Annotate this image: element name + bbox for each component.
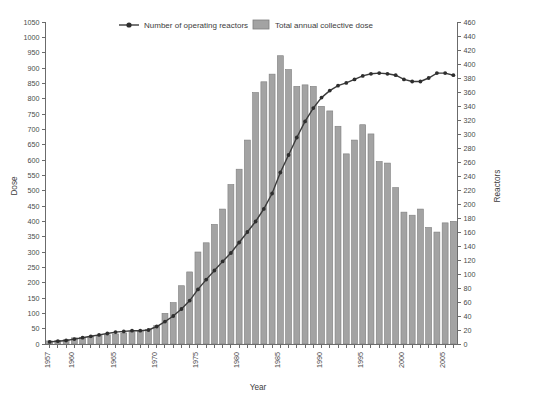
y-right-tick-label-400: 400 (464, 60, 476, 69)
plot-area (47, 56, 457, 344)
bar-1974 (187, 272, 193, 344)
bar-2002 (417, 209, 423, 344)
x-axis: 1957196019651970197519801985199019952000… (43, 344, 458, 368)
line-point-1973 (180, 307, 184, 311)
y-left-tick-label-200: 200 (28, 278, 40, 287)
y-left-tick-label-950: 950 (28, 48, 40, 57)
x-tick-label-1990: 1990 (315, 352, 324, 368)
bar-1978 (220, 209, 226, 344)
bar-1995 (360, 125, 366, 344)
line-point-1994 (353, 78, 357, 82)
y-right-tick-label-100: 100 (464, 270, 476, 279)
y-left-tick-label-550: 550 (28, 171, 40, 180)
line-point-1971 (163, 320, 167, 324)
bar-1981 (244, 140, 250, 344)
y-left-tick-label-900: 900 (28, 64, 40, 73)
y-right-tick-label-0: 0 (464, 340, 468, 349)
y-right-tick-label-40: 40 (464, 312, 472, 321)
line-point-2000 (402, 78, 406, 82)
y-left-tick-label-350: 350 (28, 232, 40, 241)
bar-1973 (178, 286, 184, 344)
line-point-1992 (336, 84, 340, 88)
line-point-1957 (48, 340, 52, 344)
bar-1980 (236, 169, 242, 344)
y-right-tick-label-20: 20 (464, 326, 472, 335)
bar-1979 (228, 185, 234, 344)
line-point-2002 (419, 80, 423, 84)
y-left-tick-label-500: 500 (28, 186, 40, 195)
line-point-1967 (130, 329, 134, 333)
y-right-tick-label-180: 180 (464, 214, 476, 223)
y-right-tick-label-280: 280 (464, 144, 476, 153)
bar-2004 (434, 232, 440, 344)
line-point-1981 (245, 230, 249, 234)
legend-label-dose: Total annual collective dose (275, 21, 373, 30)
line-point-1987 (295, 136, 299, 140)
x-tick-label-1957: 1957 (43, 352, 52, 368)
line-point-1988 (303, 120, 307, 124)
x-tick-label-1960: 1960 (67, 352, 76, 368)
y-right-tick-label-60: 60 (464, 298, 472, 307)
bar-1972 (170, 303, 176, 344)
line-point-1975 (196, 288, 200, 292)
y-right-tick-label-220: 220 (464, 186, 476, 195)
y-right-tick-label-420: 420 (464, 46, 476, 55)
y-right-tick-label-300: 300 (464, 130, 476, 139)
x-tick-label-2000: 2000 (397, 352, 406, 368)
x-tick-label-1995: 1995 (356, 352, 365, 368)
line-point-1997 (377, 71, 381, 75)
bar-1989 (310, 86, 316, 344)
line-point-1964 (105, 332, 109, 336)
line-point-1976 (204, 278, 208, 282)
y-left-tick-label-450: 450 (28, 202, 40, 211)
line-point-1978 (221, 260, 225, 264)
y-left-tick-label-300: 300 (28, 248, 40, 257)
bar-1993 (343, 154, 349, 344)
bar-1967 (129, 332, 135, 344)
y-axis-left: 0501001502002503003504004505005506006507… (24, 18, 46, 349)
y-left-tick-label-1000: 1000 (24, 33, 40, 42)
y-left-tick-label-600: 600 (28, 156, 40, 165)
bar-1985 (277, 56, 283, 344)
y-left-tick-label-250: 250 (28, 263, 40, 272)
bar-1966 (121, 333, 127, 344)
y-axis-left-title: Dose (10, 176, 19, 196)
y-right-tick-label-240: 240 (464, 172, 476, 181)
line-point-1990 (320, 96, 324, 100)
line-point-1963 (97, 333, 101, 337)
y-left-tick-label-50: 50 (32, 324, 40, 333)
line-point-1977 (213, 269, 217, 273)
dose-reactors-combo-chart: Number of operating reactors Total annua… (0, 0, 533, 405)
y-left-tick-label-1050: 1050 (24, 18, 40, 27)
y-left-tick-label-400: 400 (28, 217, 40, 226)
y-left-tick-label-850: 850 (28, 79, 40, 88)
line-point-1982 (254, 220, 258, 224)
line-point-1960 (72, 337, 76, 341)
bar-1984 (269, 74, 275, 344)
line-point-1965 (114, 330, 118, 334)
bar-2000 (401, 212, 407, 344)
line-point-2006 (451, 73, 455, 77)
line-point-1989 (311, 106, 315, 110)
y-right-tick-label-360: 360 (464, 88, 476, 97)
bar-1991 (327, 111, 333, 344)
bar-2006 (450, 221, 456, 344)
y-left-tick-label-0: 0 (36, 340, 40, 349)
x-tick-label-1975: 1975 (191, 352, 200, 368)
line-point-2003 (427, 76, 431, 80)
y-axis-right-title: Reactors (493, 170, 502, 203)
chart-container: Number of operating reactors Total annua… (0, 0, 533, 405)
bar-1994 (352, 140, 358, 344)
x-tick-label-2005: 2005 (438, 352, 447, 368)
y-left-tick-label-750: 750 (28, 110, 40, 119)
line-point-1968 (138, 329, 142, 333)
y-right-tick-label-320: 320 (464, 116, 476, 125)
line-point-1972 (171, 314, 175, 318)
y-right-tick-label-80: 80 (464, 284, 472, 293)
line-point-1985 (278, 171, 282, 175)
y-right-tick-label-340: 340 (464, 102, 476, 111)
line-point-1999 (394, 73, 398, 77)
line-point-1959 (64, 339, 68, 343)
x-axis-title: Year (250, 383, 267, 392)
bar-1992 (335, 126, 341, 344)
